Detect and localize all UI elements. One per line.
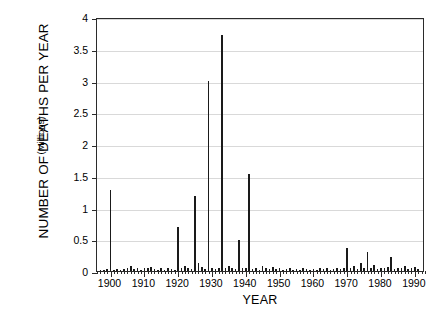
x-axis-minor-tick <box>320 271 321 274</box>
bar <box>319 268 321 271</box>
x-axis-minor-tick <box>317 271 318 274</box>
x-axis-minor-tick <box>405 271 406 274</box>
bar <box>397 268 399 271</box>
bar <box>414 267 416 271</box>
x-axis-minor-tick <box>395 271 396 274</box>
bar <box>174 270 176 271</box>
bar <box>157 270 159 271</box>
bar <box>306 269 308 271</box>
x-axis-minor-tick <box>425 271 426 274</box>
x-axis-minor-tick <box>344 271 345 274</box>
x-axis-minor-tick <box>148 271 149 274</box>
x-axis-minor-tick <box>411 271 412 274</box>
bar <box>343 268 345 271</box>
bar <box>313 269 315 271</box>
x-axis-minor-tick <box>384 271 385 274</box>
x-axis-minor-tick <box>334 271 335 274</box>
x-axis-minor-tick <box>151 271 152 274</box>
x-axis-minor-tick <box>276 271 277 274</box>
bar <box>130 266 132 271</box>
x-axis-minor-tick <box>138 271 139 274</box>
bar <box>160 268 162 271</box>
bar <box>316 270 318 271</box>
x-axis-minor-tick <box>303 271 304 274</box>
bar <box>242 268 244 271</box>
x-axis-minor-tick <box>209 271 210 274</box>
y-axis-tick-label: 3 <box>48 77 88 87</box>
y-axis-tick <box>92 114 97 115</box>
x-axis-minor-tick <box>368 271 369 274</box>
bar <box>357 269 359 271</box>
bar <box>299 270 301 271</box>
x-axis-minor-tick <box>422 271 423 274</box>
x-axis-minor-tick <box>418 271 419 274</box>
bar <box>106 269 108 271</box>
bar <box>353 266 355 271</box>
y-axis-units-label: (Millions) <box>35 91 46 181</box>
x-axis-minor-tick <box>192 271 193 274</box>
y-axis-tick-label: 2 <box>48 140 88 150</box>
x-axis-minor-tick <box>256 271 257 274</box>
bar <box>144 268 146 271</box>
y-axis-tick <box>92 210 97 211</box>
x-axis-minor-tick <box>290 271 291 274</box>
bar <box>333 269 335 271</box>
bar <box>279 268 281 271</box>
x-axis-minor-tick <box>168 271 169 274</box>
bar <box>384 268 386 271</box>
x-axis-minor-tick <box>104 271 105 274</box>
x-axis-minor-tick <box>357 271 358 274</box>
x-axis-minor-tick <box>263 271 264 274</box>
x-axis-minor-tick <box>300 271 301 274</box>
gridline <box>97 146 423 147</box>
bar <box>282 270 284 271</box>
bar <box>225 268 227 271</box>
bar <box>394 269 396 271</box>
x-axis-minor-tick <box>134 271 135 274</box>
x-axis-minor-tick <box>232 271 233 274</box>
bar <box>177 227 179 271</box>
bar <box>238 240 240 271</box>
bar <box>100 270 102 271</box>
bar <box>265 268 267 271</box>
x-axis-minor-tick <box>327 271 328 274</box>
x-axis-minor-tick <box>293 271 294 274</box>
bar <box>411 268 413 271</box>
bar <box>323 269 325 271</box>
bar <box>370 268 372 271</box>
bar <box>401 268 403 271</box>
bar <box>275 269 277 271</box>
bar <box>184 266 186 271</box>
bar <box>164 270 166 271</box>
x-axis-minor-tick <box>198 271 199 274</box>
bar <box>360 263 362 271</box>
bar <box>123 269 125 271</box>
x-axis-minor-tick <box>269 271 270 274</box>
gridline <box>97 51 423 52</box>
bar <box>272 267 274 271</box>
bar <box>407 269 409 271</box>
x-axis-minor-tick <box>239 271 240 274</box>
x-axis-minor-tick <box>286 271 287 274</box>
x-axis-minor-tick <box>307 271 308 274</box>
bar <box>140 270 142 271</box>
x-axis-minor-tick <box>185 271 186 274</box>
bar <box>116 269 118 271</box>
x-axis-minor-tick <box>249 271 250 274</box>
y-axis-tick <box>92 51 97 52</box>
bar <box>235 269 237 271</box>
x-axis-minor-tick <box>337 271 338 274</box>
bar <box>330 270 332 271</box>
bar <box>103 270 105 271</box>
bar <box>147 268 149 271</box>
x-axis-title: YEAR <box>96 293 424 307</box>
bar <box>346 248 348 271</box>
y-axis-tick-label: 1.5 <box>48 172 88 182</box>
x-axis-minor-tick <box>297 271 298 274</box>
bar <box>191 269 193 271</box>
bar <box>113 270 115 271</box>
bar <box>309 270 311 271</box>
deaths-per-year-bar-chart: NUMBER OF DEATHS PER YEAR (Millions) 00.… <box>0 0 438 316</box>
gridline <box>97 241 423 242</box>
bar <box>208 81 210 271</box>
